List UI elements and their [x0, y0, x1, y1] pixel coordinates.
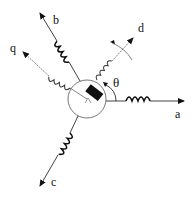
label-d: d: [138, 22, 144, 34]
axis-b: [40, 13, 80, 81]
machine-diagram: [0, 0, 195, 197]
label-a: a: [175, 108, 180, 120]
label-b: b: [53, 14, 59, 26]
axis-d: [95, 38, 133, 80]
axis-c: [40, 116, 78, 186]
theta-label: θ: [113, 76, 119, 89]
label-c: c: [51, 176, 56, 188]
axis-q: [23, 52, 87, 99]
label-q: q: [10, 42, 16, 54]
axis-a: [106, 97, 184, 101]
